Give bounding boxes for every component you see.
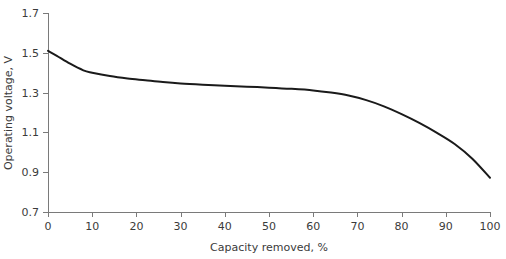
x-tick-label: 80 [395,220,409,233]
data-series-group [48,51,490,178]
x-tick-label: 60 [306,220,320,233]
x-tick-label: 20 [129,220,143,233]
x-tick-label: 30 [174,220,188,233]
operating-voltage-vs-capacity-chart: 0.70.91.11.31.51.7 010203040506070809010… [0,0,506,259]
x-tick-label: 10 [85,220,99,233]
y-tick-label: 0.9 [22,166,40,179]
y-axis-tick-labels: 0.70.91.11.31.51.7 [22,7,40,219]
x-tick-label: 0 [45,220,52,233]
x-axis-tick-labels: 0102030405060708090100 [45,220,501,233]
chart-container: 0.70.91.11.31.51.7 010203040506070809010… [0,0,506,259]
axes-group [49,13,491,213]
y-tick-label: 1.3 [22,87,40,100]
y-tick-label: 0.7 [22,206,40,219]
x-tick-label: 40 [218,220,232,233]
x-tick-label: 100 [480,220,501,233]
x-tick-label: 50 [262,220,276,233]
tick-marks-group [43,14,491,218]
y-tick-label: 1.5 [22,47,40,60]
y-tick-label: 1.7 [22,7,40,20]
x-tick-label: 70 [350,220,364,233]
x-axis-title: Capacity removed, % [210,241,328,254]
data-curve [48,51,490,178]
x-tick-label: 90 [439,220,453,233]
y-tick-label: 1.1 [22,126,40,139]
y-axis-title: Operating voltage, V [2,55,15,170]
